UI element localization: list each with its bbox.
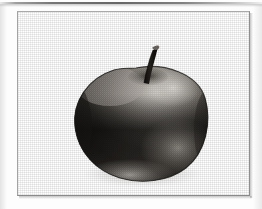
illustration-frame: [17, 11, 250, 196]
frame-shadow-bottom: [19, 196, 252, 199]
apple-illustration: [18, 12, 250, 196]
frame-shadow-right: [250, 13, 253, 198]
scan-edge-softshadow: [0, 4, 262, 7]
page-gutter-left: [0, 5, 7, 209]
scanned-page: [0, 0, 262, 209]
page-gutter-right: [253, 5, 262, 209]
